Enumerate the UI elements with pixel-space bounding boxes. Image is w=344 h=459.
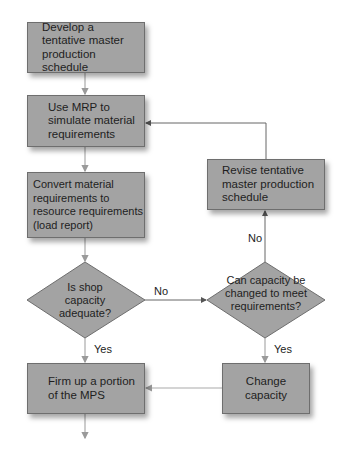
node-use-mrp-text: Use MRP to simulate material requirement…: [48, 101, 140, 142]
label-no-decision2: No: [248, 232, 262, 244]
node-change-capacity-text: Change capacity: [238, 375, 294, 402]
node-convert: Convert material requirements to resourc…: [27, 172, 145, 238]
node-use-mrp: Use MRP to simulate material requirement…: [27, 95, 145, 147]
label-yes-decision1: Yes: [94, 343, 112, 355]
node-develop-text: Develop a tentative master production sc…: [42, 21, 138, 75]
node-revise-mps: Revise tentative master production sched…: [207, 159, 325, 210]
node-firm-up: Firm up a portion of the MPS: [27, 363, 145, 414]
node-change-capacity: Change capacity: [222, 363, 310, 414]
decision-shop-capacity-text: Is shop capacity adequate?: [55, 281, 115, 320]
edge-revise-loop: [146, 123, 266, 159]
label-no-decision1: No: [154, 285, 168, 297]
label-yes-decision2: Yes: [274, 343, 292, 355]
node-develop-mps: Develop a tentative master production sc…: [27, 22, 145, 73]
node-revise-text: Revise tentative master production sched…: [222, 164, 322, 205]
decision-can-change-text: Can capacity be changed to meet requirem…: [218, 274, 314, 313]
node-convert-text: Convert material requirements to resourc…: [33, 178, 144, 232]
node-firm-up-text: Firm up a portion of the MPS: [48, 375, 140, 402]
